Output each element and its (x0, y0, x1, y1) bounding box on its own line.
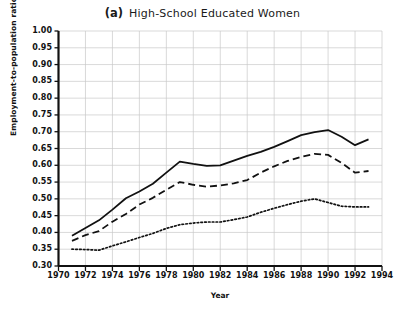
y-tick-label: 0.30 (18, 261, 52, 270)
x-tick-label: 1994 (362, 271, 402, 280)
y-tick-label: 0.95 (18, 43, 52, 52)
chart-figure: (a)High-School Educated Women Employment… (0, 0, 405, 309)
y-tick-label: 0.45 (18, 211, 52, 220)
axis-ticks (55, 31, 383, 271)
plot-area (0, 0, 405, 309)
y-tick-label: 0.40 (18, 227, 52, 236)
y-tick-label: 1.00 (18, 26, 52, 35)
y-tick-label: 0.80 (18, 93, 52, 102)
grid-lines (59, 31, 383, 266)
y-tick-label: 0.75 (18, 110, 52, 119)
y-tick-label: 0.35 (18, 244, 52, 253)
y-tick-label: 0.60 (18, 160, 52, 169)
y-tick-label: 0.90 (18, 60, 52, 69)
y-tick-label: 0.70 (18, 127, 52, 136)
y-tick-label: 0.65 (18, 144, 52, 153)
y-tick-label: 0.55 (18, 177, 52, 186)
y-tick-label: 0.50 (18, 194, 52, 203)
y-tick-label: 0.85 (18, 76, 52, 85)
